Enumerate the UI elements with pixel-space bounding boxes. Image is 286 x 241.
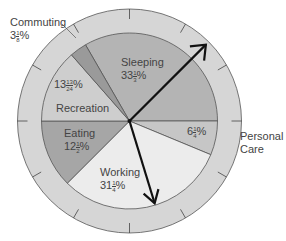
label-working-value: 3114% [100, 179, 140, 193]
label-working: Working 3114% [100, 166, 140, 193]
label-sleeping: Sleeping 3313% [121, 56, 164, 83]
label-commuting-value: 318% [10, 29, 66, 43]
label-recreation-value: 131324% [54, 78, 83, 92]
label-sleeping-name: Sleeping [121, 56, 164, 69]
hand-pivot [128, 119, 132, 123]
label-eating: Eating 1212% [64, 127, 95, 154]
label-personal-care-value: 614% [187, 125, 206, 139]
label-working-name: Working [100, 166, 140, 179]
label-sleeping-value: 3313% [121, 69, 164, 83]
label-recreation-name: Recreation [56, 102, 109, 115]
label-commuting-name: Commuting [10, 16, 66, 29]
label-commuting: Commuting 318% [10, 16, 66, 43]
label-personal-care-name: Personal Care [240, 130, 283, 156]
label-recreation: 131324% [54, 78, 83, 92]
label-eating-name: Eating [64, 127, 95, 140]
label-eating-value: 1212% [64, 140, 95, 154]
